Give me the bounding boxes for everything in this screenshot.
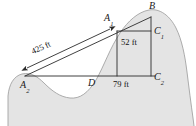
terrain-shape: [8, 10, 194, 126]
point-label-C1-base: C: [154, 25, 161, 36]
point-label-C1-sub: 1: [161, 33, 164, 40]
figure-canvas: [0, 0, 196, 126]
point-label-C1: C1: [154, 26, 164, 39]
point-label-A1-sub: 1: [110, 20, 113, 27]
point-label-D: D: [88, 78, 95, 88]
point-label-B-base: B: [149, 0, 155, 11]
geometry-figure: A1 B C1 C2 D A2 425 ft 52 ft 79 ft: [0, 0, 196, 126]
hill-fill: [8, 10, 194, 126]
point-label-A1: A1: [104, 13, 113, 26]
point-label-C2: C2: [154, 72, 164, 85]
point-label-C2-base: C: [154, 71, 161, 82]
point-label-D-base: D: [88, 77, 95, 88]
dimension-label-height: 52 ft: [121, 38, 137, 47]
point-label-B: B: [149, 1, 155, 11]
point-label-A2-sub: 2: [26, 87, 29, 94]
point-label-C2-sub: 2: [161, 79, 164, 86]
dimension-label-base: 79 ft: [113, 80, 129, 89]
point-label-A2: A2: [20, 80, 29, 93]
